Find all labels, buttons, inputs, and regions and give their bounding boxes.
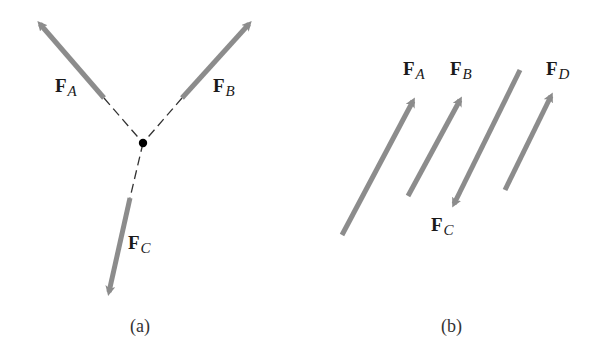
force-subscript: A [68, 83, 77, 99]
force-subscript: B [463, 66, 472, 82]
force-subscript: C [444, 222, 454, 238]
label-fd-panel-b: FD [546, 58, 569, 80]
label-fa-panel-b: FA [403, 58, 425, 80]
label-fb-panel-b: FB [450, 58, 472, 80]
caption-panel-b: (b) [441, 316, 462, 337]
force-symbol: F [128, 232, 140, 253]
label-fc-panel-b: FC [431, 214, 454, 236]
concurrency-point [139, 139, 147, 147]
force-symbol: F [450, 58, 462, 79]
label-fa-panel-a: FA [55, 75, 77, 97]
force-subscript: A [416, 66, 425, 82]
parallel-force-arrow-fa [342, 101, 413, 235]
force-subscript: D [559, 66, 570, 82]
force-symbol: F [55, 75, 67, 96]
parallel-force-arrow-fd [505, 96, 551, 190]
caption-panel-a: (a) [130, 316, 150, 337]
label-fc-panel-a: FC [128, 232, 151, 254]
force-symbol: F [546, 58, 558, 79]
force-diagram [0, 0, 594, 360]
force-symbol: F [213, 75, 225, 96]
line-of-action-b [143, 98, 182, 143]
line-of-action-a [104, 98, 143, 143]
force-arrow-fc [109, 198, 130, 292]
force-symbol: F [431, 214, 443, 235]
parallel-force-arrow-fb [408, 100, 460, 196]
line-of-action-c [130, 143, 143, 198]
panel-b [342, 70, 551, 235]
label-fb-panel-a: FB [213, 75, 235, 97]
force-subscript: C [141, 240, 151, 256]
force-symbol: F [403, 58, 415, 79]
force-subscript: B [226, 83, 235, 99]
